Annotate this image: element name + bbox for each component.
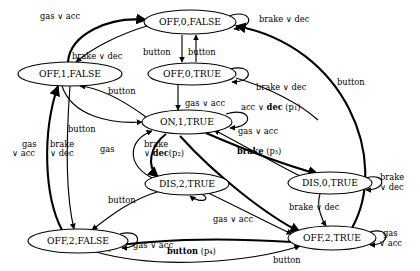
edge-label-button-right: button (337, 78, 365, 87)
brake-dec-p2-suffix: (p₂) (169, 148, 184, 158)
state-diagram: OFF,0,FALSE OFF,1,FALSE OFF,0,TRUE ON,1,… (0, 0, 420, 271)
edge-label-gas-acc-r-2: ∨ acc (379, 239, 402, 248)
edge-label-brake-dec-r2: brake ∨ dec (256, 83, 306, 92)
acc-dec-p1-suffix: (p₁) (283, 102, 301, 112)
acc-dec-p1-prefix: acc ∨ (241, 102, 267, 112)
node-label-off0true: OFF,0,TRUE (163, 68, 221, 79)
edge-label-gas-acc-4: gas ∨ acc (213, 215, 253, 224)
edge-off2false-off1false-gas-acc (47, 86, 62, 230)
node-label-on1true: ON,1,TRUE (160, 116, 214, 127)
edge-label-brake-dec-top: brake ∨ dec (72, 52, 122, 61)
edge-label-button-5: button (108, 196, 136, 205)
edge-label-acc-dec-p1: acc ∨ dec (p₁) (241, 103, 300, 112)
brake-p3-bold: brake (237, 146, 264, 156)
edge-label-gas: gas (100, 145, 115, 154)
edge-label-brake-dec-p2: ∨ dec(p₂) (144, 149, 184, 158)
edge-label-gas-acc-left-2: ∨ acc (12, 149, 35, 158)
node-label-dis0true: DIS,0,TRUE (302, 177, 358, 188)
edge-label-button-1: button (143, 48, 171, 57)
edge-label-button-4: button (68, 125, 96, 134)
node-label-off1false: OFF,1,FALSE (39, 68, 101, 79)
acc-dec-p1-bold: dec (267, 102, 283, 112)
button-p4-bold: button (167, 246, 198, 256)
edge-label-button-2: button (188, 48, 216, 57)
edge-label-brake-dec-r1: brake ∨ dec (259, 15, 309, 24)
brake-dec-p2-bold: dec (153, 148, 169, 158)
brake-p3-suffix: (p₃) (264, 146, 282, 156)
edge-label-button-6: button (273, 256, 301, 265)
node-label-dis2true: DIS,2,TRUE (159, 178, 215, 189)
node-label-off0false: OFF,0,FALSE (159, 16, 221, 27)
edge-label-gas-acc-r-1: gas (383, 229, 398, 238)
edge-label-brake-dec-r3-1: brake (380, 173, 404, 182)
node-label-off2true: OFF,2,TRUE (303, 232, 361, 243)
edge-label-brake-p3: brake (p₃) (237, 147, 281, 156)
edge-label-brake-dec-r3-2: ∨ dec (380, 183, 404, 192)
edge-label-gas-acc-top: gas ∨ acc (40, 12, 80, 21)
edge-label-button-p4: button (p₄) (167, 247, 216, 256)
button-p4-suffix: (p₄) (198, 246, 216, 256)
edge-label-button-3: button (108, 87, 136, 96)
graph-canvas: OFF,0,FALSE OFF,1,FALSE OFF,0,TRUE ON,1,… (0, 0, 420, 271)
brake-dec-p2-prefix: ∨ (144, 148, 153, 158)
edge-label-brake-dec-r4: brake ∨ dec (289, 203, 339, 212)
node-label-off2false: OFF,2,FALSE (47, 235, 109, 246)
edge-label-brake-dec-left-2: ∨ dec (50, 149, 74, 158)
edge-label-gas-acc-2: gas ∨ acc (185, 99, 225, 108)
edge-label-gas-acc-3: gas ∨ acc (238, 127, 278, 136)
